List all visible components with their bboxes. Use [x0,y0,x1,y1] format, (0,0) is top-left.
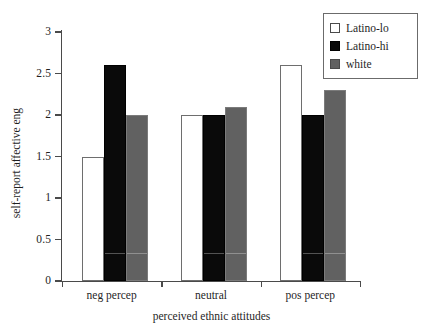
y-tick-mark [55,197,61,198]
bar-neg-percep-white [126,115,148,281]
x-tick-mark [360,281,361,287]
legend-swatch-icon [330,59,340,69]
bar-neutral-latino-hi [203,115,225,281]
legend-item: white [330,55,410,73]
x-axis-title: perceived ethnic attitudes [0,310,423,322]
y-tick-mark [55,73,61,74]
x-tick-mark [161,281,162,287]
bar-neutral-latino-lo [181,115,203,281]
y-tick-mark [55,114,61,115]
legend-label: Latino-lo [346,22,389,34]
y-tick-label: 3 [11,26,51,38]
bar-neutral-white [225,107,247,281]
x-tick-mark [62,281,63,287]
bar-pos-percep-latino-lo [280,65,302,281]
legend-swatch-icon [330,23,340,33]
y-tick-mark [55,31,61,32]
y-tick-label: 0 [11,275,51,287]
y-axis-title: self-report affective eng [10,63,22,263]
legend-label: white [346,58,372,70]
plot-area [62,32,360,281]
bar-pos-percep-white [324,90,346,281]
y-tick-mark [55,239,61,240]
bar-chart: 00.511.522.53 neg percepneutralpos perce… [0,0,423,335]
legend-item: Latino-hi [330,37,410,55]
legend-swatch-icon [330,41,340,51]
y-tick-mark [55,156,61,157]
x-tick-mark [261,281,262,287]
y-tick-mark [55,280,61,281]
legend-label: Latino-hi [346,40,389,52]
legend: Latino-loLatino-hiwhite [323,13,418,79]
bar-pos-percep-latino-hi [302,115,324,281]
legend-item: Latino-lo [330,19,410,37]
bar-neg-percep-latino-lo [82,157,104,282]
x-tick-label: pos percep [250,289,370,302]
bar-neg-percep-latino-hi [104,65,126,281]
